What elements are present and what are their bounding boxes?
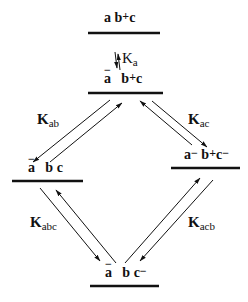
species-b: b — [201, 147, 209, 162]
k-subscript: ac — [200, 117, 210, 129]
k-subscript: a — [133, 56, 138, 68]
state-top: a b+c — [104, 10, 135, 26]
k-symbol: K — [188, 214, 200, 230]
species-a: a — [104, 10, 111, 25]
constant-ka: Ka — [122, 50, 138, 67]
state-right: a− b+c− — [184, 147, 229, 163]
constant-kac: Kac — [188, 111, 209, 128]
charge-minus: − — [104, 63, 111, 77]
constant-kab: Kab — [37, 111, 59, 128]
arrow-ka-down — [115, 52, 117, 68]
charge-minus: − — [105, 257, 112, 271]
constant-kacb: Kacb — [188, 214, 215, 231]
species-c: c — [136, 71, 142, 86]
charge-plus: + — [129, 70, 136, 84]
k-symbol: K — [188, 111, 200, 127]
charge-minus: − — [222, 146, 229, 160]
species-a: a — [184, 147, 191, 162]
charge-minus: − — [140, 264, 147, 278]
arrow-mid-to-left — [33, 100, 110, 162]
k-subscript: abc — [42, 220, 57, 232]
arrow-left-to-mid — [50, 103, 122, 162]
charge-plus: + — [209, 146, 216, 160]
state-bottom: a− b c− — [105, 265, 147, 281]
species-c: c — [129, 10, 135, 25]
charge-plus: + — [122, 9, 129, 23]
species-b: b — [121, 71, 129, 86]
k-symbol: K — [122, 50, 133, 66]
arrow-bottom-to-left — [56, 190, 116, 263]
arrow-right-to-mid — [140, 101, 192, 145]
charge-minus: − — [28, 152, 35, 166]
constant-kabc: Kabc — [30, 214, 57, 231]
k-subscript: ab — [49, 117, 59, 129]
k-subscript: acb — [200, 220, 215, 232]
state-left: a− b c — [28, 160, 63, 176]
k-symbol: K — [30, 214, 42, 230]
species-bc: b c — [45, 160, 63, 175]
k-symbol: K — [37, 111, 49, 127]
arrow-ka-up — [118, 54, 120, 70]
charge-minus: − — [191, 146, 198, 160]
species-bc: b c — [122, 265, 140, 280]
state-mid: a− b+c — [104, 71, 142, 87]
